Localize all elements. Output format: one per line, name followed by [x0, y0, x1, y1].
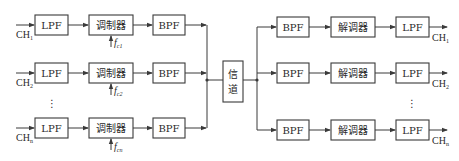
lpf-label: LPF: [41, 20, 61, 31]
lpf-label: LPF: [402, 22, 422, 33]
bpf-label: BPF: [282, 22, 303, 33]
channel-label-line1: 信: [228, 69, 238, 80]
bpf-label: BPF: [158, 68, 179, 79]
output-label: CHn: [432, 135, 449, 147]
bpf-label: BPF: [282, 125, 303, 136]
demodulator-label: 解调器: [338, 21, 368, 33]
lpf-label: LPF: [402, 68, 422, 79]
carrier-label: fc2: [114, 85, 122, 97]
output-label: CH2: [432, 78, 449, 90]
lpf-label: LPF: [41, 123, 61, 134]
channel-label-line2: 道: [228, 83, 238, 95]
channel-box: [223, 61, 243, 102]
rx-branch-1: BPF 解调器 LPF CH1: [257, 17, 449, 44]
output-label: CH1: [432, 32, 449, 44]
demodulator-label: 解调器: [338, 67, 368, 79]
tx-branch-1: CH1 LPF 调制器 fc1 BPF: [16, 15, 206, 49]
ellipsis: ⋮: [407, 98, 417, 109]
ellipsis: ⋮: [47, 98, 57, 109]
channel-block: 信 道: [223, 61, 243, 102]
input-label: CH2: [16, 77, 33, 89]
input-label: CH1: [16, 29, 33, 41]
lpf-label: LPF: [41, 68, 61, 79]
rx-branch-n: BPF 解调器 LPF CHn: [257, 120, 449, 147]
fdm-block-diagram: CH1 LPF 调制器 fc1 BPF CH2 LPF 调制器 fc2 BPF …: [0, 0, 459, 161]
modulator-label: 调制器: [96, 122, 126, 134]
tx-branch-2: CH2 LPF 调制器 fc2 BPF: [16, 63, 206, 97]
modulator-label: 调制器: [96, 67, 126, 79]
carrier-label: fcn: [114, 141, 122, 153]
demodulator-label: 解调器: [338, 124, 368, 136]
bpf-label: BPF: [282, 68, 303, 79]
carrier-label: fc1: [114, 37, 122, 49]
bpf-label: BPF: [158, 20, 179, 31]
rx-branch-2: BPF 解调器 LPF CH2: [257, 63, 449, 90]
input-label: CHn: [16, 132, 33, 144]
bpf-label: BPF: [158, 123, 179, 134]
tx-branch-n: CHn LPF 调制器 fcn BPF: [16, 118, 206, 153]
modulator-label: 调制器: [96, 19, 126, 31]
lpf-label: LPF: [402, 125, 422, 136]
